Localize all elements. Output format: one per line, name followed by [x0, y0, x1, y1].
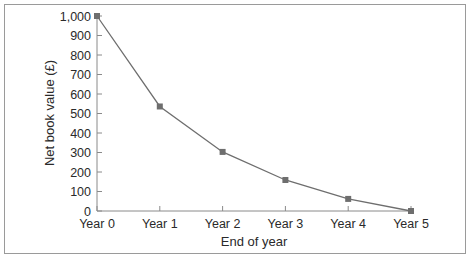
x-tick-label: Year 0	[79, 217, 115, 231]
x-axis-title: End of year	[221, 234, 288, 249]
data-point-marker	[408, 208, 414, 214]
x-axis: Year 0Year 1Year 2Year 3Year 4Year 5	[79, 206, 429, 231]
y-tick-label: 200	[70, 166, 91, 180]
y-tick-label: 500	[70, 107, 91, 121]
y-tick-label: 300	[70, 146, 91, 160]
y-tick-label: 700	[70, 68, 91, 82]
data-point-marker	[345, 196, 351, 202]
y-tick-label: 900	[70, 29, 91, 43]
x-tick-label: Year 4	[330, 217, 366, 231]
data-series	[94, 13, 414, 214]
y-tick-label: 600	[70, 88, 91, 102]
y-tick-label: 400	[70, 127, 91, 141]
y-axis-title: Net book value (£)	[42, 60, 57, 166]
data-point-marker	[220, 149, 226, 155]
y-tick-label: 100	[70, 185, 91, 199]
y-axis: 01002003004005006007008009001,000	[60, 10, 102, 219]
x-tick-label: Year 2	[205, 217, 241, 231]
y-tick-label: 1,000	[60, 10, 91, 24]
x-tick-label: Year 1	[142, 217, 178, 231]
data-point-marker	[282, 177, 288, 183]
data-point-marker	[94, 13, 100, 19]
x-tick-label: Year 3	[268, 217, 304, 231]
series-line	[97, 16, 411, 211]
y-tick-label: 800	[70, 49, 91, 63]
data-point-marker	[157, 103, 163, 109]
x-tick-label: Year 5	[393, 217, 429, 231]
line-chart: 01002003004005006007008009001,000 Year 0…	[0, 0, 474, 263]
